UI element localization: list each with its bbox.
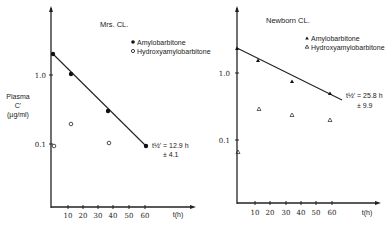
left-xtick: 20: [79, 212, 88, 220]
left-x-arrow-icon: [190, 205, 196, 209]
right-xtick: 10: [251, 209, 260, 217]
left-x-label: t(h): [173, 211, 184, 219]
left-ytick-1: 1.0: [35, 72, 46, 80]
left-y-arrow-icon: [49, 6, 53, 12]
right-panel: 1.0 0.1 10 20 30 40 50 60 t(h) Newborn C…: [219, 6, 385, 217]
left-xtick: 50: [125, 212, 134, 220]
left-legend-amylo: Amylobarbitone: [137, 39, 186, 47]
right-ytick-1: 1.0: [219, 70, 230, 78]
right-series-hydroxy: [236, 107, 332, 154]
left-xtick: 40: [109, 212, 118, 220]
left-xtick: 30: [94, 212, 103, 220]
left-fit-line: [53, 54, 146, 146]
left-series-hydroxy: [52, 122, 111, 148]
right-halflife: t½' = 25.8 h: [346, 92, 383, 99]
left-panel: 1.0 0.1 10 20 30 40 50 60 t(h) Plasma C'…: [6, 6, 210, 220]
left-halflife-sd: ± 4.1: [163, 151, 179, 158]
right-x-arrow-icon: [375, 201, 381, 205]
y-label-units: (µg/ml): [7, 111, 29, 119]
right-x-label: t(h): [362, 209, 373, 217]
left-xtick: 10: [64, 212, 73, 220]
right-legend-hydroxy: Hydroxyamylobarbitone: [311, 44, 385, 52]
right-fit-line: [237, 48, 342, 100]
left-legend-hydroxy: Hydroxyamylobarbitone: [137, 48, 211, 56]
left-title: Mrs. CL.: [100, 20, 128, 29]
right-xtick: 50: [312, 209, 321, 217]
open-circle-icon: [131, 49, 134, 52]
chart-canvas: 1.0 0.1 10 20 30 40 50 60 t(h) Plasma C'…: [0, 0, 387, 225]
right-halflife-sd: ± 9.9: [357, 102, 373, 109]
right-xtick: 40: [297, 209, 306, 217]
y-label-plasma: Plasma: [6, 93, 29, 100]
left-ytick-0-1: 0.1: [35, 141, 46, 149]
right-y-arrow-icon: [235, 6, 239, 12]
y-label-c: C': [15, 102, 21, 109]
filled-circle-icon: [131, 40, 135, 44]
right-xtick: 30: [282, 209, 291, 217]
right-title: Newborn CL.: [266, 16, 310, 25]
right-xtick: 60: [328, 209, 337, 217]
left-xtick: 60: [141, 212, 150, 220]
left-halflife: t½' = 12.9 h: [152, 142, 189, 149]
right-xtick: 20: [266, 209, 275, 217]
filled-triangle-icon: [305, 37, 309, 40]
right-ytick-0-1: 0.1: [219, 137, 230, 145]
right-legend-amylo: Amylobarbitone: [311, 35, 360, 43]
open-triangle-icon: [305, 45, 309, 48]
